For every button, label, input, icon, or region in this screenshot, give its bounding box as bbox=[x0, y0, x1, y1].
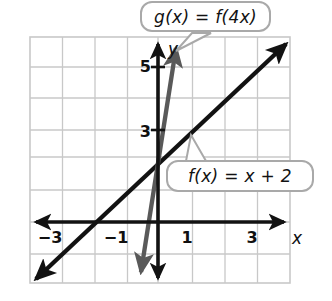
callout-f-function: f(x) = x + 2 bbox=[166, 160, 314, 192]
callout-g-function: g(x) = f(4x) bbox=[140, 1, 271, 32]
coordinate-plane bbox=[0, 0, 332, 301]
y-tick-label-3: 3 bbox=[133, 122, 151, 141]
x-tick-label-1: 1 bbox=[176, 228, 198, 247]
x-tick-label-neg3: −3 bbox=[34, 228, 66, 247]
x-tick-label-neg1: −1 bbox=[100, 228, 132, 247]
x-tick-label-3: 3 bbox=[241, 228, 263, 247]
y-axis-label: y bbox=[168, 39, 178, 59]
graph-figure: 5 3 −3 −1 1 3 y x g(x) = f(4x) f(x) = x … bbox=[0, 0, 332, 301]
x-axis-label: x bbox=[292, 228, 302, 248]
y-tick-label-5: 5 bbox=[133, 57, 151, 76]
